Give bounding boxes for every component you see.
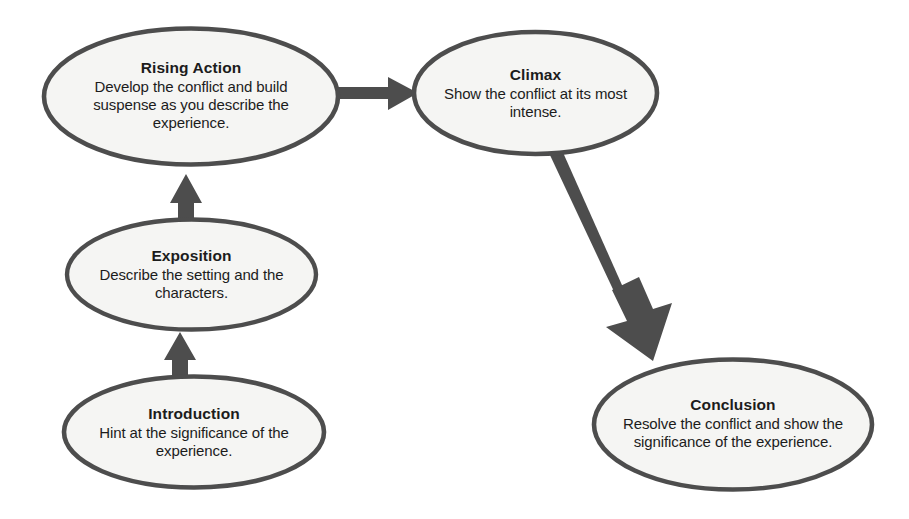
node-exposition-body: Describe the setting and the characters. [89, 266, 294, 302]
connector-exposition-to-rising-action [170, 174, 202, 222]
arrow-right-rising-action-to-climax [334, 77, 418, 110]
node-rising-action-title: Rising Action [141, 59, 242, 77]
node-rising-action[interactable]: Rising Action Develop the conflict and b… [42, 27, 340, 166]
arrow-head-climax-to-conclusion [606, 277, 672, 361]
node-introduction[interactable]: Introduction Hint at the significance of… [62, 375, 326, 489]
node-climax[interactable]: Climax Show the conflict at its most int… [412, 30, 659, 156]
arrow-up-introduction-to-exposition [164, 332, 196, 380]
node-climax-body: Show the conflict at its most intense. [434, 85, 637, 121]
node-conclusion[interactable]: Conclusion Resolve the conflict and show… [592, 358, 874, 491]
node-rising-action-body: Develop the conflict and build suspense … [68, 78, 314, 132]
arrow-up-exposition-to-rising-action [170, 174, 202, 222]
connector-climax-to-conclusion [549, 148, 672, 361]
node-exposition-title: Exposition [151, 247, 231, 265]
node-conclusion-title: Conclusion [690, 396, 775, 414]
node-climax-title: Climax [510, 66, 561, 84]
node-exposition[interactable]: Exposition Describe the setting and the … [65, 218, 318, 331]
node-introduction-title: Introduction [148, 405, 240, 423]
node-introduction-body: Hint at the significance of the experien… [84, 424, 304, 460]
connector-rising-action-to-climax [334, 77, 418, 110]
node-conclusion-body: Resolve the conflict and show the signif… [614, 415, 852, 451]
diagram-canvas: Rising Action Develop the conflict and b… [0, 0, 909, 519]
connector-introduction-to-exposition [164, 332, 196, 380]
